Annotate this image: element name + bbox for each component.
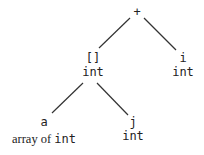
node-a-type-prefix: array of: [12, 132, 54, 146]
node-index-label: []: [86, 52, 100, 64]
node-root-label: +: [133, 6, 140, 18]
node-j-type: int: [122, 130, 144, 142]
edge-index-to-a: [52, 83, 83, 113]
node-right-i-type: int: [172, 66, 194, 78]
edge-root-to-right-i: [144, 18, 176, 50]
node-a-type-name: int: [54, 132, 76, 146]
node-j-label: j: [129, 116, 136, 128]
node-a-label: a: [40, 116, 47, 128]
node-a-type: array of int: [12, 130, 76, 146]
edge-root-to-index: [99, 18, 130, 48]
node-right-i-label: i: [179, 52, 186, 64]
expression-tree-diagram: + [] int i int a array of int j int: [0, 0, 204, 155]
node-index-type: int: [82, 66, 104, 78]
edge-index-to-j: [97, 83, 128, 115]
